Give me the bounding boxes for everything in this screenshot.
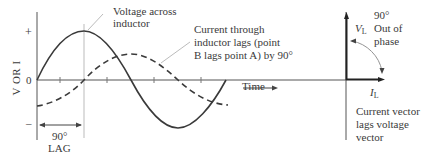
phase-label-line2: Out of	[374, 22, 402, 34]
phase-angle-label: 90°	[374, 9, 389, 21]
phasor-caption-line3: vector	[356, 131, 383, 143]
current-label-line1: Current through	[194, 23, 265, 35]
current-label-line3: B lags point A) by 90°	[194, 49, 293, 61]
current-label-line2: inductor lags (point	[194, 36, 280, 48]
voltage-vector-label: VL	[355, 22, 367, 38]
voltage-label-line2: inductor	[113, 17, 150, 29]
y-tick-zero: 0	[26, 74, 32, 86]
lag-text-label: LAG	[48, 142, 71, 154]
phasor-caption-line1: Current vector	[356, 105, 420, 117]
phasor-caption-line2: lags voltage	[356, 118, 409, 130]
y-axis-label: V OR I	[10, 60, 22, 95]
phase-label-line3: phase	[374, 35, 399, 47]
current-vector-label: IL	[370, 86, 379, 102]
y-tick-plus: +	[25, 26, 32, 38]
voltage-label-line1: Voltage across	[113, 5, 177, 17]
voltage-leader	[88, 14, 103, 30]
current-leader	[161, 42, 190, 63]
lag-angle-label: 90°	[52, 130, 67, 142]
time-axis-label: Time	[242, 80, 265, 92]
y-tick-minus: –	[26, 117, 32, 129]
